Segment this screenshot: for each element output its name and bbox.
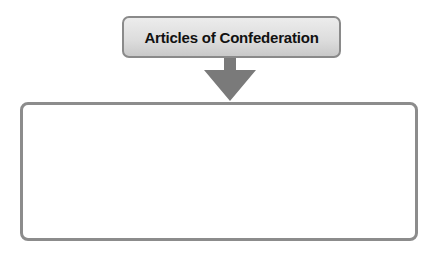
- down-arrow-icon: [200, 58, 260, 104]
- title-text: Articles of Confederation: [144, 29, 318, 46]
- answer-box[interactable]: [20, 102, 418, 241]
- title-box: Articles of Confederation: [122, 16, 341, 58]
